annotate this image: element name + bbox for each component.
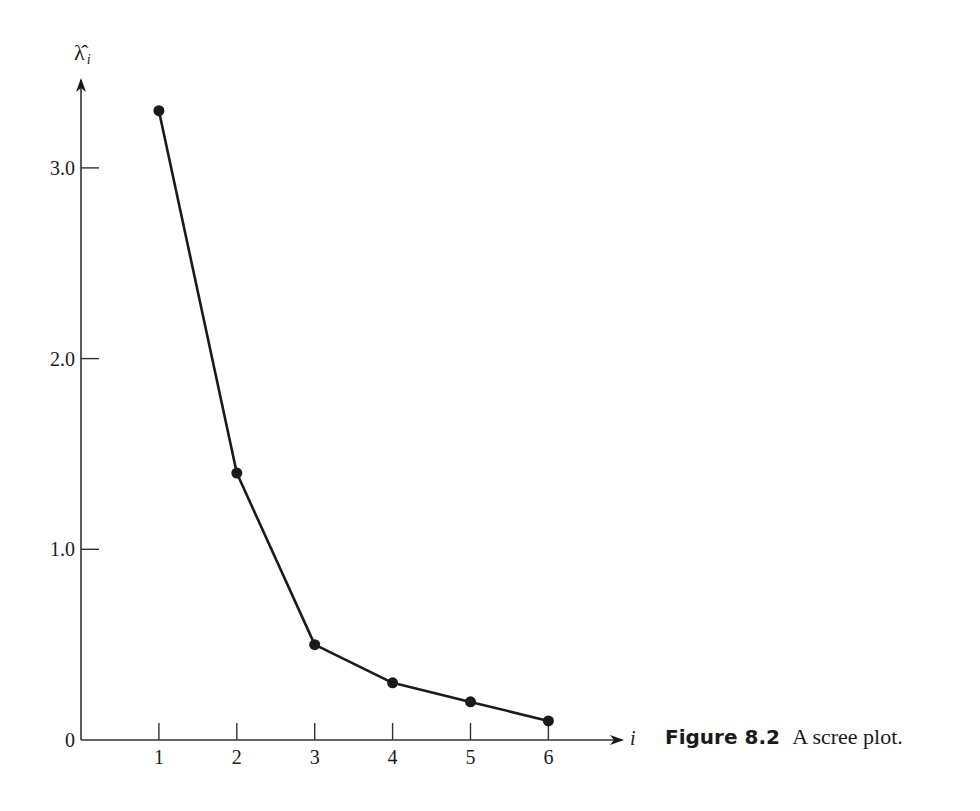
x-tick-label: 3 bbox=[310, 746, 320, 768]
scree-plot: 01.02.03.0 123456 λ̂i i bbox=[0, 0, 980, 811]
figure-caption-text: A scree plot. bbox=[792, 724, 903, 749]
x-tick-label: 6 bbox=[543, 746, 553, 768]
y-tick-label: 1.0 bbox=[50, 538, 75, 560]
data-point-marker bbox=[465, 696, 476, 707]
figure-caption: Figure 8.2 A scree plot. bbox=[665, 724, 903, 750]
x-tick-label: 1 bbox=[154, 746, 164, 768]
figure-number: Figure 8.2 bbox=[665, 725, 780, 749]
x-ticks: 123456 bbox=[154, 723, 554, 768]
y-ticks: 01.02.03.0 bbox=[50, 157, 99, 751]
data-point-marker bbox=[309, 639, 320, 650]
y-tick-label: 0 bbox=[65, 729, 75, 751]
data-point-marker bbox=[153, 105, 164, 116]
x-axis-label: i bbox=[630, 727, 636, 749]
data-point-marker bbox=[387, 677, 398, 688]
y-axis-label-subscript: i bbox=[87, 52, 91, 67]
y-tick-label: 3.0 bbox=[50, 157, 75, 179]
y-axis-label: λ̂i bbox=[74, 40, 91, 67]
data-point-marker bbox=[231, 468, 242, 479]
x-tick-label: 5 bbox=[466, 746, 476, 768]
eigenvalue-markers bbox=[153, 105, 554, 726]
x-tick-label: 4 bbox=[388, 746, 398, 768]
eigenvalue-line bbox=[159, 111, 549, 721]
x-tick-label: 2 bbox=[232, 746, 242, 768]
y-tick-label: 2.0 bbox=[50, 348, 75, 370]
data-point-marker bbox=[543, 715, 554, 726]
